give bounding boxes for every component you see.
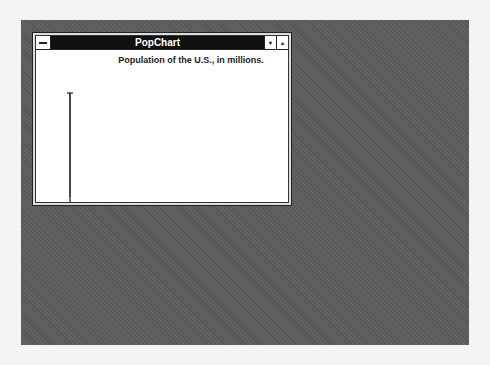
minimize-icon: ▾	[269, 39, 272, 46]
chart-title: Population of the U.S., in millions.	[118, 55, 264, 65]
system-menu-button[interactable]	[36, 36, 51, 49]
popchart-window-1[interactable]: PopChart ▾ ▴ Population of the U.S., in …	[32, 32, 292, 206]
chart-area: Population of the U.S., in millions.	[36, 50, 288, 202]
minimize-button[interactable]: ▾	[264, 36, 276, 49]
maximize-button[interactable]: ▴	[276, 36, 288, 49]
window-title: PopChart	[51, 37, 264, 48]
scatter-chart: Population of the U.S., in millions.	[36, 50, 288, 202]
system-menu-icon	[39, 42, 47, 44]
maximize-icon: ▴	[281, 39, 284, 46]
title-bar[interactable]: PopChart ▾ ▴	[36, 36, 288, 50]
